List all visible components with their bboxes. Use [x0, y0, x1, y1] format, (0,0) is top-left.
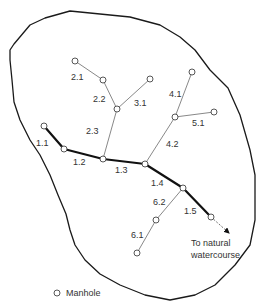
manhole-icon — [172, 114, 178, 120]
manhole-icon — [147, 76, 153, 82]
pipe-label: 1.5 — [184, 206, 197, 216]
pipe-label: 2.1 — [71, 72, 84, 82]
manhole-icon — [189, 69, 195, 75]
manhole-icon — [100, 156, 106, 162]
pipe-label: 1.1 — [36, 138, 49, 148]
manholes — [41, 58, 217, 256]
pipe-label: 4.1 — [169, 89, 182, 99]
manhole-icon — [211, 109, 217, 115]
manhole-icon — [41, 123, 47, 129]
pipe-label: 1.3 — [115, 165, 128, 175]
pipe-label: 6.2 — [153, 197, 166, 207]
manhole-icon — [134, 250, 140, 256]
pipe-1.3 — [103, 159, 145, 164]
pipe-label: 2.3 — [86, 126, 99, 136]
pipe-2.3 — [103, 109, 117, 159]
manhole-legend-icon — [54, 290, 60, 296]
pipe-network — [44, 61, 214, 253]
outlet-arrow — [211, 217, 229, 233]
manhole-icon — [153, 217, 159, 223]
pipe-label: 3.1 — [134, 98, 147, 108]
manhole-icon — [208, 214, 214, 220]
manhole-icon — [61, 146, 67, 152]
manhole-icon — [180, 185, 186, 191]
pipe-label: 1.2 — [73, 157, 86, 167]
legend: Manhole — [54, 288, 101, 298]
outlet-label-line2: watercourse — [190, 250, 240, 260]
manhole-icon — [100, 77, 106, 83]
pipe-label: 4.2 — [166, 139, 179, 149]
outlet-label: To natural — [191, 238, 231, 248]
manhole-icon — [114, 106, 120, 112]
pipe-5.1 — [175, 112, 214, 117]
pipe-label: 1.4 — [151, 178, 164, 188]
pipe-label: 2.2 — [93, 94, 106, 104]
manhole-icon — [142, 161, 148, 167]
manhole-icon — [72, 58, 78, 64]
legend-label: Manhole — [66, 288, 101, 298]
sewer-network-diagram: 1.11.21.31.41.52.12.22.33.14.14.25.16.16… — [0, 0, 262, 308]
pipe-labels: 1.11.21.31.41.52.12.22.33.14.14.25.16.16… — [36, 72, 205, 240]
pipe-label: 5.1 — [192, 118, 205, 128]
pipe-label: 6.1 — [131, 230, 144, 240]
